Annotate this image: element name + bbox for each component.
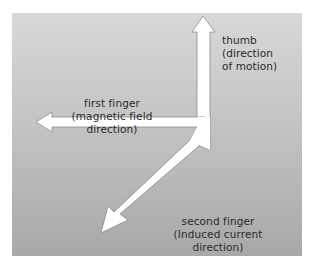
first-finger-label-line3: direction): [52, 123, 172, 136]
thumb-label-line2: (direction: [222, 47, 277, 60]
first-finger-label-line2: (magnetic field: [52, 110, 172, 123]
second-finger-label-line3: direction): [158, 241, 278, 254]
first-finger-label: first finger (magnetic field direction): [52, 97, 172, 136]
second-finger-label-line1: second finger: [158, 215, 278, 228]
thumb-label-line3: of motion): [222, 60, 277, 73]
thumb-label-line1: thumb: [222, 34, 277, 47]
thumb-label: thumb (direction of motion): [222, 34, 277, 73]
first-finger-label-line1: first finger: [52, 97, 172, 110]
second-finger-label: second finger (Induced current direction…: [158, 215, 278, 254]
second-finger-label-line2: (Induced current: [158, 228, 278, 241]
